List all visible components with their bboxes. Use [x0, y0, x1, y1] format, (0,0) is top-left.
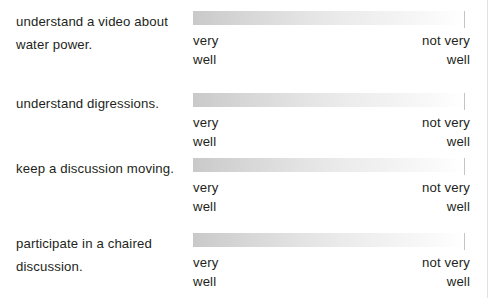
rating-bar-gradient [193, 233, 464, 247]
rating-scale-sheet: understand a video about water power. ve… [0, 0, 497, 298]
page-edge-rule [487, 0, 488, 298]
rating-row: keep a discussion moving. very well not … [0, 149, 497, 224]
rating-row: understand digressions. very well not ve… [0, 84, 497, 159]
anchor-label-high: not very well [422, 113, 470, 151]
rating-scale-bar[interactable] [193, 11, 465, 28]
rating-scale-bar[interactable] [193, 233, 465, 250]
rating-bar-gradient [193, 158, 464, 172]
anchor-label-low: very well [193, 31, 218, 69]
anchor-label-high: not very well [422, 31, 470, 69]
anchor-label-high: not very well [422, 253, 470, 291]
rating-bar-gradient [193, 11, 464, 25]
anchor-label-low: very well [193, 113, 218, 151]
rating-bar-end-tick [464, 158, 465, 175]
item-statement: understand digressions. [16, 92, 188, 115]
item-statement: understand a video about water power. [16, 10, 188, 56]
item-statement: participate in a chaired discussion. [16, 232, 188, 278]
rating-scale-bar[interactable] [193, 93, 465, 110]
rating-bar-end-tick [464, 93, 465, 110]
anchor-label-low: very well [193, 253, 218, 291]
rating-row: participate in a chaired discussion. ver… [0, 224, 497, 298]
anchor-label-low: very well [193, 178, 218, 216]
rating-scale-bar[interactable] [193, 158, 465, 175]
anchor-label-high: not very well [422, 178, 470, 216]
rating-bar-gradient [193, 93, 464, 107]
rating-bar-end-tick [464, 11, 465, 28]
rating-row: understand a video about water power. ve… [0, 2, 497, 77]
rating-bar-end-tick [464, 233, 465, 250]
item-statement: keep a discussion moving. [16, 157, 188, 180]
